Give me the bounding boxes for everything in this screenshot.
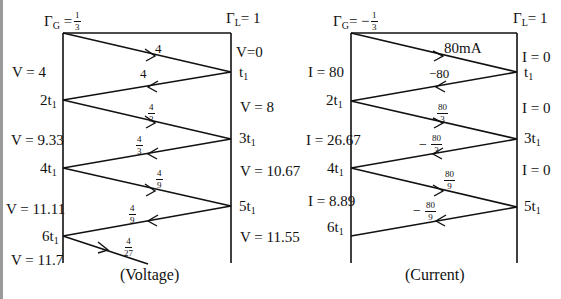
- current-left-label: I = 80: [308, 65, 344, 80]
- current-time-mark: 5t1: [524, 199, 541, 214]
- voltage-right-label: V=0: [236, 45, 263, 60]
- voltage-left-label: V = 11.7: [11, 253, 63, 268]
- voltage-wave-fraction: 49: [129, 204, 136, 225]
- current-time-mark: t1: [524, 65, 533, 80]
- current-gamma-g-fraction: 13: [371, 11, 378, 32]
- current-wave-sign: −: [413, 204, 421, 218]
- voltage-right-label: V = 10.67: [240, 164, 300, 179]
- voltage-gamma-g-fraction: 13: [74, 11, 81, 32]
- voltage-right-label: V = 8: [240, 100, 274, 115]
- voltage-arrowheads: [98, 49, 158, 253]
- current-gamma-g-label: ΓG= −: [333, 14, 370, 29]
- voltage-wave-fraction: 427: [124, 237, 133, 258]
- voltage-wave-fraction: 43: [148, 103, 155, 124]
- current-left-label: I = 8.89: [308, 194, 355, 209]
- current-wave-fraction: 809: [425, 201, 436, 222]
- voltage-time-mark: 2t1: [40, 93, 57, 108]
- voltage-gamma-g-label: ΓG =: [44, 14, 72, 29]
- voltage-wave-fraction: 43: [136, 135, 143, 156]
- voltage-wave-fraction: 49: [156, 169, 163, 190]
- voltage-time-mark: 4t1: [40, 161, 57, 176]
- voltage-right-label: V = 11.55: [240, 230, 300, 245]
- voltage-time-mark: t1: [239, 65, 248, 80]
- voltage-wave-label: 4: [140, 67, 147, 80]
- current-left-label: I = 26.67: [306, 133, 361, 148]
- voltage-time-mark: 5t1: [239, 199, 256, 214]
- current-time-mark: 4t1: [327, 161, 344, 176]
- voltage-gamma-l-label: ΓL= 1: [226, 11, 261, 26]
- voltage-time-mark: 3t1: [239, 131, 256, 146]
- current-right-label: I = 0: [522, 163, 550, 178]
- current-wave-fraction: 803: [437, 103, 448, 124]
- current-wave-fraction: 803: [431, 134, 442, 155]
- current-wave-fraction: 809: [444, 170, 455, 191]
- current-wave-sign: −: [419, 138, 427, 152]
- voltage-left-label: V = 9.33: [11, 133, 64, 148]
- voltage-left-label: V = 11.11: [6, 202, 65, 217]
- current-wave-label: 80mA: [444, 41, 482, 56]
- current-right-label: I = 0: [522, 101, 550, 116]
- current-gamma-l-label: ΓL= 1: [513, 11, 548, 26]
- voltage-bounce-lines: [63, 33, 231, 264]
- current-time-mark: 3t1: [524, 131, 541, 146]
- current-time-mark: 2t1: [326, 93, 343, 108]
- current-time-mark: 6t1: [327, 220, 344, 235]
- current-wave-label: −80: [429, 67, 449, 80]
- current-right-label: I = 0: [522, 50, 550, 65]
- voltage-left-label: V = 4: [12, 65, 46, 80]
- voltage-frame: [63, 33, 231, 263]
- current-caption: (Current): [405, 267, 465, 283]
- voltage-caption: (Voltage): [120, 267, 179, 283]
- voltage-time-mark: 6t1: [42, 229, 59, 244]
- voltage-wave-label: 4: [155, 42, 162, 55]
